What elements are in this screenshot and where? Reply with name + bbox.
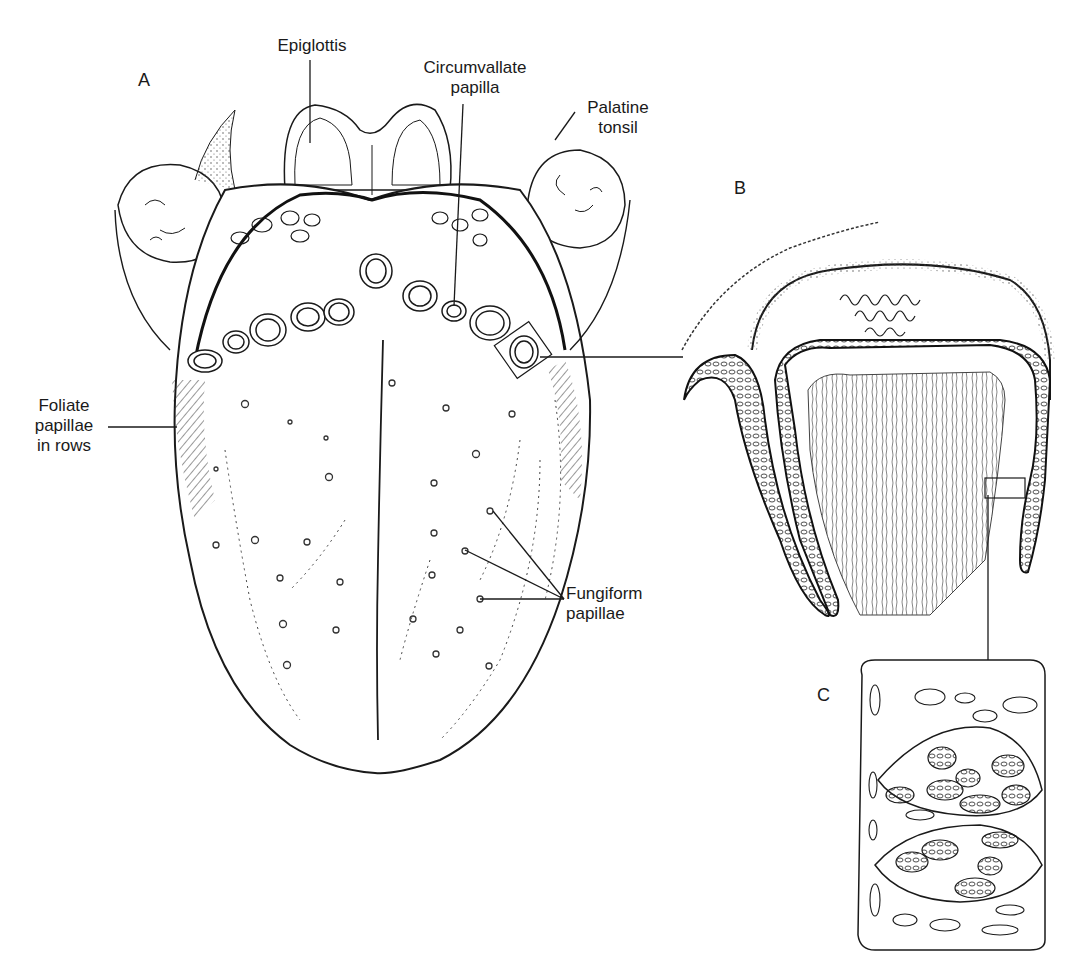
- illustration: [0, 0, 1088, 970]
- panel-a-tongue: [115, 104, 630, 773]
- panel-letter-a: A: [138, 70, 150, 91]
- panel-c-taste-buds: [858, 660, 1045, 950]
- label-epiglottis: Epiglottis: [270, 36, 354, 56]
- label-fungiform-papillae: Fungiform papillae: [566, 584, 656, 624]
- label-palatine-tonsil: Palatine tonsil: [578, 98, 658, 138]
- panel-letter-b: B: [734, 178, 746, 199]
- label-foliate-papillae: Foliate papillae in rows: [18, 396, 110, 456]
- label-circumvallate-papilla: Circumvallate papilla: [420, 58, 530, 98]
- tongue-anatomy-figure: A B C Epiglottis Circumvallate papilla P…: [0, 0, 1088, 970]
- panel-letter-c: C: [817, 685, 830, 706]
- panel-b-section: [682, 222, 1050, 616]
